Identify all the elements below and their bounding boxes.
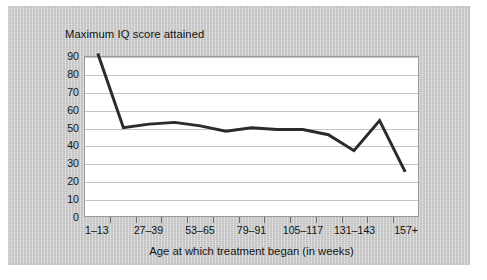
data-line	[98, 53, 405, 171]
x-tick	[393, 217, 394, 223]
x-axis-ticks	[84, 217, 419, 223]
x-tick	[316, 217, 317, 223]
data-line-series	[85, 57, 418, 216]
y-tick-label: 20	[57, 175, 79, 187]
figure-panel: Maximum IQ score attained 90807060504030…	[8, 6, 470, 265]
x-tick-label: 79–91	[237, 224, 266, 236]
x-tick	[136, 217, 137, 223]
x-tick	[110, 217, 111, 223]
y-tick-label: 70	[57, 86, 79, 98]
y-axis-tick-labels: 9080706050403020100	[52, 56, 79, 217]
y-tick-label: 10	[57, 193, 79, 205]
x-tick-label: 131–143	[334, 224, 375, 236]
x-tick-label: 1–13	[85, 224, 109, 236]
x-tick	[264, 217, 265, 223]
x-tick	[213, 217, 214, 223]
y-tick-label: 40	[57, 139, 79, 151]
y-tick-label: 50	[57, 122, 79, 134]
y-tick-label: 30	[57, 157, 79, 169]
x-tick	[239, 217, 240, 223]
plot-area	[84, 56, 419, 217]
x-tick	[367, 217, 368, 223]
x-axis-caption: Age at which treatment began (in weeks)	[84, 245, 419, 257]
x-tick-label: 157+	[394, 224, 418, 236]
x-tick	[342, 217, 343, 223]
y-tick-label: 0	[57, 211, 79, 223]
y-tick-label: 90	[57, 50, 79, 62]
x-tick	[161, 217, 162, 223]
chart-title: Maximum IQ score attained	[65, 28, 204, 40]
y-tick-label: 80	[57, 68, 79, 80]
x-tick-label: 27–39	[134, 224, 163, 236]
x-tick	[290, 217, 291, 223]
x-tick-label: 105–117	[283, 224, 323, 236]
y-tick-label: 60	[57, 104, 79, 116]
x-tick-label: 53–65	[185, 224, 214, 236]
x-tick	[187, 217, 188, 223]
chart-screenshot: Maximum IQ score attained 90807060504030…	[0, 0, 487, 280]
x-axis-tick-labels: 1–1327–3953–6579–91105–117131–143157+	[84, 224, 419, 238]
